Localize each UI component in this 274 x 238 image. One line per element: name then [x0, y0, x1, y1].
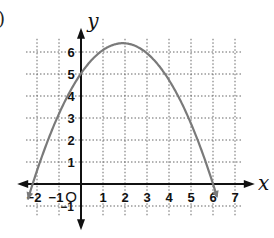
y-axis-label: y	[86, 9, 99, 33]
x-tick-label: 1	[99, 190, 106, 205]
x-axis-label: x	[258, 171, 269, 195]
y-tick-label: 1	[67, 155, 74, 170]
x-tick-label: 5	[187, 190, 194, 205]
parabola-curve	[27, 43, 219, 199]
x-tick-label: 7	[231, 190, 238, 205]
x-tick-label: 4	[165, 190, 173, 205]
x-tick-label: 2	[121, 190, 128, 205]
coordinate-plane: −2−11234567−1123456Oxy	[0, 0, 274, 238]
x-tick-label: 3	[143, 190, 150, 205]
y-tick-label: 6	[67, 45, 74, 60]
x-axis-arrow-right-icon	[244, 180, 255, 188]
y-tick-label: 5	[67, 67, 74, 82]
y-axis-arrow-up-icon	[77, 28, 85, 39]
y-tick-label: 3	[67, 111, 74, 126]
y-tick-label: 2	[67, 133, 74, 148]
y-axis-arrow-down-icon	[77, 219, 85, 230]
x-axis-arrow-left-icon	[17, 180, 28, 188]
origin-label: O	[65, 188, 77, 205]
parabola-path	[28, 43, 217, 199]
